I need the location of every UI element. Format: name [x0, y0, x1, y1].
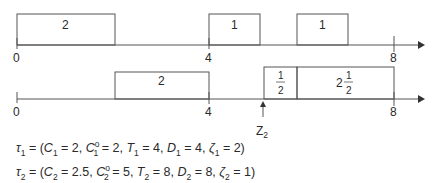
tick-label: 8 — [390, 51, 397, 65]
timeline-bottom — [17, 67, 425, 117]
block-label: 1 — [231, 18, 238, 32]
fraction-denominator: 2 — [346, 85, 352, 96]
task-definition-tau2: τ2 = (C2 = 2.5, Co2 = 5, T2 = 8, D2 = 8,… — [16, 163, 255, 182]
tick-label: 8 — [390, 105, 397, 119]
fraction-denominator: 2 — [278, 85, 284, 96]
task-definition-tau1: τ1 = (C1 = 2, Co1 = 2, T1 = 4, D1 = 4, ζ… — [16, 139, 245, 158]
fraction-numerator: 1 — [346, 70, 352, 81]
block-label: 2 — [158, 74, 165, 88]
mixed-whole: 2 — [336, 76, 343, 90]
arrow-head-icon — [418, 95, 425, 103]
fraction-numerator: 1 — [278, 70, 284, 81]
tick-label: 0 — [13, 51, 20, 65]
z2-label: Z2 — [256, 124, 268, 140]
timeline-top — [17, 14, 425, 52]
tick-label: 0 — [13, 105, 20, 119]
block-label: 2 — [62, 18, 69, 32]
block-label: 1 — [319, 18, 326, 32]
tick-label: 4 — [205, 51, 212, 65]
tick-label: 4 — [205, 105, 212, 119]
arrow-head-icon — [418, 41, 425, 49]
arrow-up-icon — [260, 101, 266, 107]
